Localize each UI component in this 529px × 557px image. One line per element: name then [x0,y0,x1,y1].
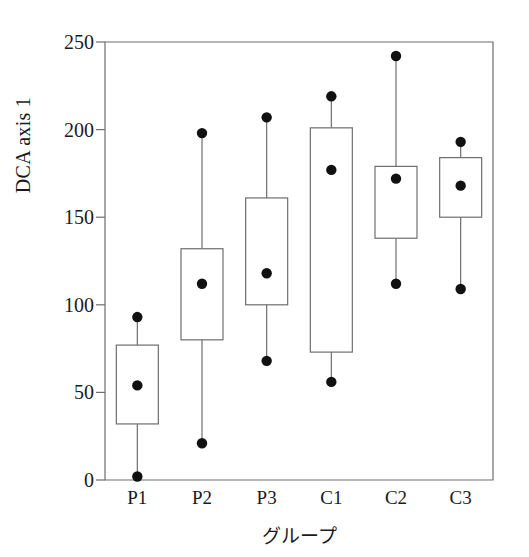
y-axis-tick-label: 150 [48,207,94,227]
y-axis-tick-label: 50 [48,382,94,402]
boxplot-figure: DCA axis 1 050100150200250 P1P2P3C1C2C3 … [0,0,529,557]
mean-marker [391,173,401,183]
whisker-upper-marker [326,91,336,101]
plot-frame [105,42,493,480]
box-rect [310,128,352,352]
x-axis-tick-label-c1: C1 [296,487,366,509]
whisker-upper-marker [132,312,142,322]
x-axis-tick-label-p2: P2 [167,487,237,509]
box-c3 [440,137,482,295]
whisker-lower-marker [326,377,336,387]
box-p2 [181,128,223,449]
mean-marker [261,268,271,278]
mean-marker [197,279,207,289]
whisker-upper-marker [455,137,465,147]
whisker-lower-marker [197,438,207,448]
box-rect [181,249,223,340]
x-axis-tick-label-p3: P3 [232,487,302,509]
whisker-lower-marker [391,279,401,289]
x-axis-tick-label-p1: P1 [102,487,172,509]
x-axis-tick-label-c3: C3 [426,487,496,509]
whisker-lower-marker [132,471,142,481]
y-axis-tick-label: 100 [48,295,94,315]
whisker-lower-marker [261,356,271,366]
box-p1 [116,312,158,482]
y-axis-tick-label: 200 [48,120,94,140]
box-rect [246,198,288,305]
whisker-upper-marker [197,128,207,138]
mean-marker [132,380,142,390]
box-p3 [246,112,288,366]
whisker-lower-marker [455,284,465,294]
mean-marker [326,165,336,175]
whisker-upper-marker [261,112,271,122]
y-axis-tick-label: 0 [48,470,94,490]
y-axis-tick-label: 250 [48,32,94,52]
box-c1 [310,91,352,387]
x-axis-title: グループ [105,521,493,548]
mean-marker [455,180,465,190]
whisker-upper-marker [391,51,401,61]
box-c2 [375,51,417,289]
x-axis-tick-label-c2: C2 [361,487,431,509]
